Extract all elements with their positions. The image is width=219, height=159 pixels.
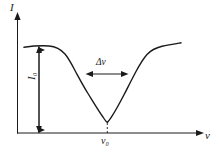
absorption-profile-curve <box>24 43 181 123</box>
linewidth-annotation-arrow <box>86 71 129 77</box>
y-axis <box>14 12 20 133</box>
x-axis <box>18 130 205 136</box>
y-axis-arrowhead <box>14 12 20 20</box>
x-axis-label: ν <box>205 130 210 141</box>
linewidth-label-delta-nu: Δν <box>96 58 106 68</box>
depth-annotation-arrow <box>36 46 42 134</box>
center-frequency-label-nu0: ν₀ <box>101 136 109 146</box>
depth-label-I0: I₀ <box>26 73 37 81</box>
absorption-line-profile-figure: I ν I₀ Δν ν₀ <box>0 0 219 159</box>
x-axis-arrowhead <box>196 130 204 136</box>
y-axis-label: I <box>10 2 14 13</box>
